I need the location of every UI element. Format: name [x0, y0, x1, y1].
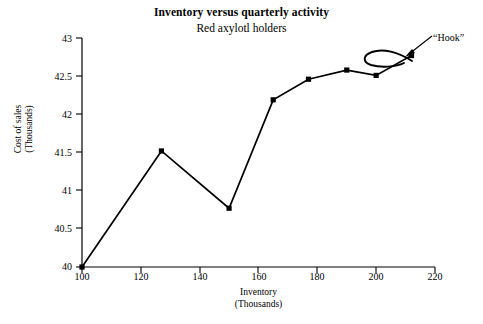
- data-point-marker: [374, 73, 379, 78]
- hook-annotation-arrow: [405, 36, 432, 57]
- data-series-markers: [79, 53, 414, 270]
- chart-container: Inventory versus quarterly activity Red …: [0, 0, 483, 324]
- data-point-marker: [306, 77, 311, 82]
- data-point-marker: [344, 67, 349, 72]
- data-series-line: [82, 56, 411, 267]
- data-point-marker: [226, 206, 231, 211]
- plot-area: [0, 0, 483, 324]
- x-axis-ticks: [82, 267, 435, 273]
- data-point-marker: [271, 97, 276, 102]
- data-point-marker: [79, 264, 84, 269]
- data-point-marker: [159, 148, 164, 153]
- y-axis-ticks: [76, 38, 82, 267]
